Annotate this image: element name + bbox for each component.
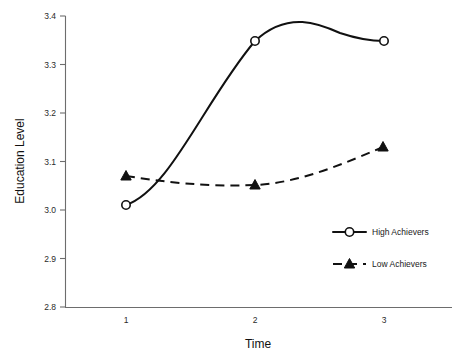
series-high-achievers-line	[126, 22, 384, 205]
legend-item-low-achievers[interactable]: Low Achievers	[333, 259, 427, 270]
legend-item-high-achievers[interactable]: High Achievers	[333, 227, 429, 237]
data-point-low-1	[121, 171, 131, 181]
data-point-low-3	[378, 142, 388, 152]
chart-legend: High Achievers Low Achievers	[333, 227, 429, 269]
line-chart-canvas: 3.4 3.3 3.2 3.1 3.0 2.9 2.8 1 2 3 Educat…	[0, 0, 456, 357]
data-point-high-3	[380, 37, 388, 45]
legend-label-low-achievers: Low Achievers	[372, 259, 427, 269]
series-low-achievers	[121, 142, 388, 190]
x-tick-label-2: 3	[382, 315, 387, 325]
y-tick-label-2: 3.0	[44, 205, 56, 215]
data-point-high-2	[251, 37, 259, 45]
x-tick-label-0: 1	[124, 315, 129, 325]
chart-figure: 3.4 3.3 3.2 3.1 3.0 2.9 2.8 1 2 3 Educat…	[0, 0, 456, 357]
legend-label-high-achievers: High Achievers	[372, 227, 429, 237]
y-tick-marks	[60, 16, 66, 307]
x-axis-title: Time	[245, 337, 272, 351]
x-tick-labels: 1 2 3	[124, 315, 387, 325]
y-axis-title: Education Level	[13, 118, 27, 203]
y-tick-label-0: 2.8	[44, 302, 56, 312]
x-tick-label-1: 2	[253, 315, 258, 325]
data-point-high-1	[122, 201, 130, 209]
y-tick-label-6: 3.4	[44, 11, 56, 21]
legend-marker-open-circle	[345, 228, 353, 236]
y-tick-label-3: 3.1	[44, 157, 56, 167]
y-tick-labels: 3.4 3.3 3.2 3.1 3.0 2.9 2.8	[44, 11, 56, 312]
y-tick-label-1: 2.9	[44, 254, 56, 264]
y-tick-label-4: 3.2	[44, 108, 56, 118]
y-tick-label-5: 3.3	[44, 60, 56, 70]
